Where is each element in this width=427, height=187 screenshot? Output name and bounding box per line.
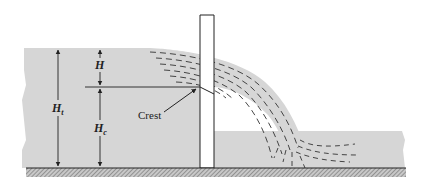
- head-label: H: [94, 58, 105, 72]
- upstream-water: [22, 48, 200, 168]
- ground: [26, 168, 406, 177]
- weir-diagram: H Ht Hc Crest: [0, 0, 427, 187]
- weir-plate: [200, 15, 214, 168]
- crest-label: Crest: [138, 109, 161, 121]
